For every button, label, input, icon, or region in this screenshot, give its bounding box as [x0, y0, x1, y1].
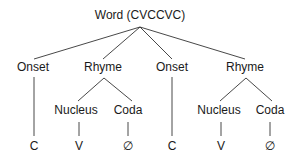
node-nucleus-1: Nucleus	[54, 103, 97, 117]
edge-word-onset1	[34, 27, 140, 59]
node-rhyme-1: Rhyme	[84, 60, 122, 74]
node-onset-2: Onset	[156, 60, 188, 74]
edge-word-rhyme1	[103, 27, 140, 59]
node-rhyme-2: Rhyme	[226, 60, 264, 74]
leaf-v-2: V	[217, 139, 225, 153]
leaf-null-1: ∅	[123, 139, 133, 153]
node-nucleus-2: Nucleus	[197, 103, 240, 117]
leaf-c-2: C	[168, 139, 177, 153]
edge-rhyme2-nucleus	[220, 78, 246, 101]
edge-rhyme2-coda	[246, 78, 272, 101]
edge-rhyme1-coda	[104, 78, 132, 101]
leaf-c-1: C	[30, 139, 39, 153]
node-coda-1: Coda	[114, 103, 143, 117]
tree-edges	[0, 0, 302, 160]
edge-rhyme1-nucleus	[78, 78, 104, 101]
node-coda-2: Coda	[256, 103, 285, 117]
node-word: Word (CVCCVC)	[95, 8, 185, 22]
node-onset-1: Onset	[17, 60, 49, 74]
leaf-null-2: ∅	[265, 139, 275, 153]
leaf-v-1: V	[75, 139, 83, 153]
